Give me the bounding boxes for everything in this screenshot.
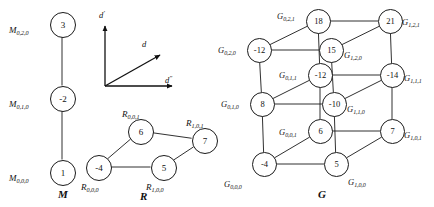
node-value: -12 [315, 71, 326, 80]
node-value: -10 [329, 100, 340, 109]
node-value: 15 [327, 46, 336, 55]
node-label-m-0-2-0: M0,2,0 [9, 20, 28, 36]
node-g-1-0-0[interactable]: 5 [324, 152, 349, 177]
axis-label-vertical: d' [99, 9, 105, 20]
node-value: 5 [334, 160, 338, 169]
node-label-g-0-1-0: G0,1,0 [221, 94, 239, 110]
node-g-1-1-0[interactable]: -10 [322, 92, 347, 117]
node-g-0-0-0[interactable]: -4 [252, 152, 277, 177]
node-m-0-0-0[interactable]: 1 [50, 160, 76, 186]
node-label-r-0-0-0: R0,0,0 [81, 177, 98, 193]
node-label-r-1-0-0: R1,0,0 [146, 177, 163, 193]
node-label-g-1-0-1: G1,0,1 [404, 125, 422, 141]
node-value: -2 [59, 95, 67, 104]
node-value: 8 [260, 100, 264, 109]
node-label-r-1-0-1: R1,0,1 [186, 113, 203, 129]
node-g-1-2-0[interactable]: 15 [319, 38, 344, 63]
node-value: -4 [95, 164, 103, 173]
node-value: -12 [254, 46, 265, 55]
node-label-g-1-2-1: G1,2,1 [402, 12, 420, 28]
node-r-0-0-1[interactable]: 6 [128, 119, 154, 145]
node-label-m-0-1-0: M0,1,0 [9, 94, 28, 110]
node-value: 1 [61, 169, 66, 178]
node-value: 3 [61, 21, 66, 30]
node-value: 5 [162, 164, 167, 173]
node-m-0-1-0[interactable]: -2 [50, 86, 76, 112]
node-g-0-1-1[interactable]: -12 [308, 63, 333, 88]
node-g-0-0-1[interactable]: 6 [308, 119, 333, 144]
node-r-1-0-1[interactable]: 7 [192, 128, 218, 154]
node-g-1-0-1[interactable]: 7 [380, 119, 405, 144]
node-label-g-0-1-1: G0,1,1 [279, 65, 297, 81]
node-label-g-1-2-0: G1,2,0 [344, 45, 362, 61]
node-label-g-1-1-0: G1,1,0 [347, 99, 365, 115]
caption-graph-m: M [58, 188, 68, 200]
node-label-g-0-0-0: G0,0,0 [224, 174, 242, 190]
node-g-1-2-1[interactable]: 21 [378, 9, 403, 34]
node-g-1-1-1[interactable]: -14 [380, 63, 405, 88]
node-value: -14 [387, 71, 398, 80]
caption-graph-r: R [140, 190, 147, 202]
node-g-0-2-1[interactable]: 18 [306, 9, 331, 34]
diagram-canvas: d' d d″ 3 -2 1 M0,2,0 M0,1,0 M0,0,0 M 6 … [0, 0, 434, 207]
node-label-g-0-0-1: G0,0,1 [279, 122, 297, 138]
node-label-g-1-1-1: G1,1,1 [404, 68, 422, 84]
node-value: 21 [386, 17, 395, 26]
node-value: 7 [390, 127, 394, 136]
axis-label-diagonal: d [142, 38, 146, 49]
node-label-g-1-0-0: G1,0,0 [348, 172, 366, 188]
node-label-r-0-0-1: R0,0,1 [122, 104, 139, 120]
node-g-0-2-0[interactable]: -12 [247, 38, 272, 63]
node-m-0-2-0[interactable]: 3 [50, 12, 76, 38]
node-label-g-0-2-0: G0,2,0 [218, 40, 236, 56]
node-value: -4 [261, 160, 268, 169]
node-label-m-0-0-0: M0,0,0 [9, 168, 28, 184]
node-value: 6 [318, 127, 322, 136]
node-value: 7 [203, 137, 208, 146]
axis-label-horizontal: d″ [165, 74, 172, 85]
node-value: 18 [314, 17, 323, 26]
node-g-0-1-0[interactable]: 8 [250, 92, 275, 117]
node-label-g-0-2-1: G0,2,1 [277, 6, 295, 22]
node-value: 6 [139, 128, 144, 137]
caption-graph-g: G [318, 188, 326, 200]
